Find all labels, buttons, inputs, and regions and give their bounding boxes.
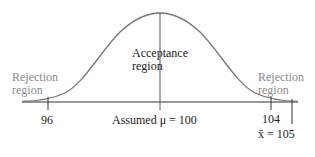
- rejection-right-label: Rejection region: [258, 71, 304, 97]
- tick-label-104: 104: [262, 113, 280, 126]
- tick-label-96: 96: [41, 114, 53, 127]
- acceptance-line2: region: [132, 60, 202, 73]
- rejection-left-label: Rejection region: [12, 71, 58, 97]
- acceptance-region-label: Acceptance region: [132, 47, 202, 73]
- rejection-right-line2: region: [258, 84, 304, 97]
- rejection-left-line2: region: [12, 84, 58, 97]
- tick-label-sample-mean: x̄ = 105: [258, 128, 295, 141]
- tick-label-mean: Assumed μ = 100: [112, 114, 197, 127]
